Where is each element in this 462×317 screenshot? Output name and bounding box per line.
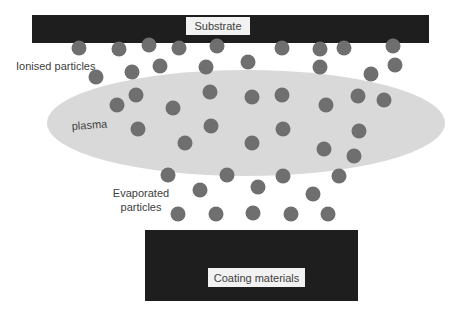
ionised-particle [386, 39, 401, 54]
ionised-particle [72, 41, 87, 56]
ionised-particle [172, 41, 187, 56]
ionised-particle [388, 58, 403, 73]
evaporated-particle [161, 168, 176, 183]
plasma-particle [276, 122, 291, 137]
evaporated-particle [251, 180, 266, 195]
ionised-particle [313, 60, 328, 75]
plasma-particle [351, 89, 366, 104]
evaporated-particle [209, 207, 224, 222]
plasma-particle [166, 101, 181, 116]
ionised-particle [153, 59, 168, 74]
ionised-particle [125, 65, 140, 80]
plasma-particle [204, 119, 219, 134]
ionised-particle [199, 60, 214, 75]
coating-materials: Coating materials [145, 230, 358, 301]
plasma-particle [129, 88, 144, 103]
deposition-diagram: Substrate Coating materials Ionised part… [0, 0, 462, 317]
plasma-particle [245, 136, 260, 151]
evaporated-particle [284, 207, 299, 222]
plasma-particle [319, 98, 334, 113]
plasma-particle [131, 122, 146, 137]
ionised-particle [364, 67, 379, 82]
plasma-particle [347, 149, 362, 164]
ionised-particle [241, 55, 256, 70]
ionised-particle [337, 41, 352, 56]
plasma-particle [178, 136, 193, 151]
evaporated-particle [306, 187, 321, 202]
evaporated-particles-label-line2: particles [121, 201, 162, 213]
ionised-particle [313, 42, 328, 57]
coating-materials-block [145, 230, 358, 301]
evaporated-particle [246, 206, 261, 221]
plasma-particle [110, 98, 125, 113]
evaporated-particle [220, 168, 235, 183]
ionised-particle [210, 39, 225, 54]
evaporated-particle [321, 207, 336, 222]
plasma-particle [377, 93, 392, 108]
ionised-particle [112, 42, 127, 57]
evaporated-particle [193, 183, 208, 198]
plasma-particle [275, 88, 290, 103]
evaporated-particle [276, 169, 291, 184]
plasma-label: plasma [71, 117, 108, 132]
ionised-particle [275, 41, 290, 56]
substrate: Substrate [32, 15, 429, 43]
coating-materials-label: Coating materials [214, 272, 300, 284]
evaporated-particle [171, 207, 186, 222]
evaporated-particles-label-line1: Evaporated [113, 187, 169, 199]
substrate-label: Substrate [194, 20, 241, 32]
plasma-particle [317, 142, 332, 157]
plasma-particle [245, 90, 260, 105]
ionised-particle [142, 38, 157, 53]
evaporated-particle [332, 169, 347, 184]
plasma-particle [352, 124, 367, 139]
plasma-particle [203, 85, 218, 100]
ionised-particles-label: Ionised particles [16, 60, 96, 72]
